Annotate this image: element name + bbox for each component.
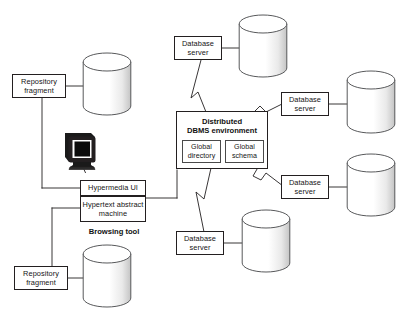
database-server-right-upper-label: Database server xyxy=(289,95,321,113)
global-schema-line2: schema xyxy=(232,152,257,160)
database-server-right-lower-line2: server xyxy=(295,187,316,196)
repository-fragment-bottom-line2: fragment xyxy=(26,278,56,287)
database-server-right-upper-line1: Database xyxy=(289,95,321,104)
repository-fragment-top-box[interactable]: Repository fragment xyxy=(12,74,66,98)
global-schema-line1: Global xyxy=(234,143,255,151)
global-schema-label: Global schema xyxy=(232,143,257,160)
database-server-top-line1: Database xyxy=(182,39,214,48)
repository-fragment-top-line2: fragment xyxy=(24,86,54,95)
database-server-bottom-box[interactable]: Database server xyxy=(176,231,224,255)
hypertext-abstract-machine-label: Hypertext abstract machine xyxy=(83,200,144,218)
database-server-bottom-line2: server xyxy=(190,243,211,252)
global-directory-line1: Global xyxy=(191,143,212,151)
distributed-dbms-environment-box[interactable]: Distributed DBMS environment Global dire… xyxy=(176,111,268,169)
diagram-canvas: Repository fragment Repository fragment … xyxy=(0,0,418,326)
hypermedia-ui-label: Hypermedia UI xyxy=(88,183,138,192)
computer-monitor-icon xyxy=(62,131,106,173)
database-server-right-lower-box[interactable]: Database server xyxy=(281,175,329,199)
database-server-right-upper-box[interactable]: Database server xyxy=(281,92,329,116)
database-server-bottom-label: Database server xyxy=(184,234,216,252)
database-server-bottom-line1: Database xyxy=(184,234,216,243)
dbms-title-line2: DBMS environment xyxy=(187,126,257,135)
repository-fragment-bottom-box[interactable]: Repository fragment xyxy=(14,266,68,290)
global-directory-line2: directory xyxy=(188,152,216,160)
browsing-tool-label: Browsing tool xyxy=(74,227,154,236)
database-server-right-upper-line2: server xyxy=(295,104,316,113)
database-server-top-line2: server xyxy=(188,48,209,57)
global-schema-box[interactable]: Global schema xyxy=(225,140,264,163)
hypermedia-ui-box[interactable]: Hypermedia UI xyxy=(80,180,146,196)
distributed-dbms-environment-title: Distributed DBMS environment xyxy=(177,117,267,136)
global-directory-box[interactable]: Global directory xyxy=(182,140,221,163)
hypertext-abstract-machine-line2: machine xyxy=(99,209,127,218)
database-server-right-lower-label: Database server xyxy=(289,178,321,196)
database-cylinder-icon xyxy=(238,14,288,80)
database-cylinder-icon xyxy=(346,70,396,136)
hypertext-abstract-machine-line1: Hypertext abstract xyxy=(83,200,144,209)
repository-fragment-bottom-label: Repository fragment xyxy=(23,269,59,287)
database-server-top-box[interactable]: Database server xyxy=(174,36,222,60)
database-cylinder-icon xyxy=(241,209,291,275)
repository-fragment-top-label: Repository fragment xyxy=(21,77,57,95)
database-server-top-label: Database server xyxy=(182,39,214,57)
hypertext-abstract-machine-box[interactable]: Hypertext abstract machine xyxy=(80,196,146,222)
database-cylinder-icon xyxy=(82,52,132,118)
database-cylinder-icon xyxy=(82,244,132,310)
repository-fragment-bottom-line1: Repository xyxy=(23,269,59,278)
dbms-title-line1: Distributed xyxy=(202,117,242,126)
repository-fragment-top-line1: Repository xyxy=(21,77,57,86)
database-server-right-lower-line1: Database xyxy=(289,178,321,187)
global-directory-label: Global directory xyxy=(188,143,216,160)
database-cylinder-icon xyxy=(346,153,396,219)
